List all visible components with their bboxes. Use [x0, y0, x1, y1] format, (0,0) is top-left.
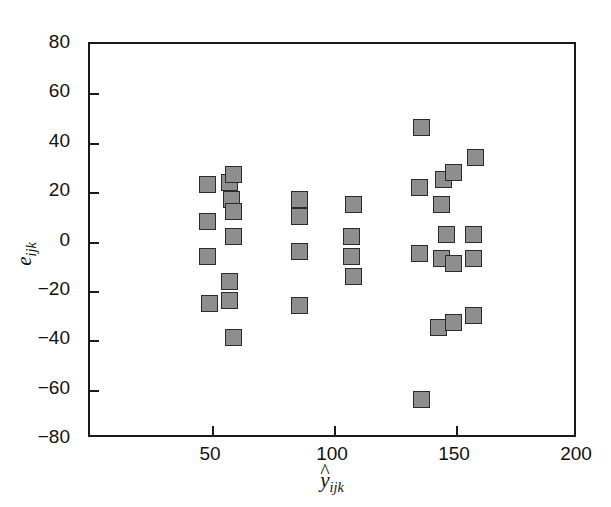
data-point-marker: [199, 213, 216, 230]
y-axis-tick: [90, 143, 99, 145]
data-point-marker: [291, 243, 308, 260]
data-point-marker: [445, 164, 462, 181]
y-axis-title: eijk: [12, 242, 40, 266]
x-axis-tick: [212, 426, 214, 435]
y-axis-title-base: e: [12, 256, 36, 265]
data-point-marker: [225, 329, 242, 346]
data-point-marker: [221, 292, 238, 309]
data-point-marker: [411, 245, 428, 262]
data-point-marker: [291, 208, 308, 225]
data-point-marker: [465, 226, 482, 243]
y-axis-tick-label: 80: [49, 31, 70, 53]
y-axis-tick-label: −40: [38, 327, 70, 349]
data-point-marker: [201, 295, 218, 312]
y-axis-tick-label: 0: [59, 229, 70, 251]
data-point-marker: [345, 196, 362, 213]
data-point-marker: [411, 179, 428, 196]
y-axis-tick: [90, 93, 99, 95]
y-axis-tick-labels: 806040200−20−40−60−80: [0, 42, 80, 437]
y-axis-tick-label: −20: [38, 278, 70, 300]
data-point-marker: [225, 166, 242, 183]
data-point-marker: [291, 191, 308, 208]
data-point-marker: [445, 255, 462, 272]
data-point-marker: [343, 228, 360, 245]
x-axis-tick-label: 150: [438, 443, 470, 465]
y-axis-tick: [90, 291, 99, 293]
scatter-plot-figure: 806040200−20−40−60−80 eijk 50100150200 ^…: [0, 0, 611, 507]
data-point-marker: [199, 176, 216, 193]
data-point-marker: [445, 314, 462, 331]
x-axis-title-base: ^y: [320, 468, 329, 493]
data-point-marker: [225, 203, 242, 220]
y-axis-title-subscript: ijk: [23, 242, 39, 256]
data-point-marker: [413, 391, 430, 408]
plot-frame: [88, 42, 576, 437]
data-point-marker: [465, 250, 482, 267]
y-axis-tick: [90, 340, 99, 342]
hat-accent-icon: ^: [320, 462, 329, 482]
x-axis-tick-label: 50: [199, 443, 220, 465]
y-axis-tick-label: −60: [38, 377, 70, 399]
data-point-marker: [345, 268, 362, 285]
y-axis-tick-label: 40: [49, 130, 70, 152]
data-point-marker: [413, 119, 430, 136]
data-point-marker: [225, 228, 242, 245]
data-point-marker: [291, 297, 308, 314]
data-point-marker: [438, 226, 455, 243]
data-point-marker: [467, 149, 484, 166]
x-axis-title-subscript: ijk: [330, 479, 344, 495]
y-axis-tick-label: −80: [38, 426, 70, 448]
x-axis-tick: [456, 426, 458, 435]
x-axis-tick: [334, 426, 336, 435]
data-point-marker: [433, 196, 450, 213]
x-axis-tick-label: 200: [560, 443, 592, 465]
data-point-marker: [199, 248, 216, 265]
data-point-marker: [343, 248, 360, 265]
data-point-marker: [465, 307, 482, 324]
plot-area: [90, 44, 574, 435]
y-axis-tick-label: 20: [49, 179, 70, 201]
y-axis-tick: [90, 390, 99, 392]
y-axis-tick: [90, 192, 99, 194]
y-axis-tick-label: 60: [49, 80, 70, 102]
data-point-marker: [221, 273, 238, 290]
y-axis-tick: [90, 242, 99, 244]
x-axis-tick-labels: 50100150200: [88, 443, 576, 471]
x-axis-title: ^yijk: [88, 468, 576, 496]
